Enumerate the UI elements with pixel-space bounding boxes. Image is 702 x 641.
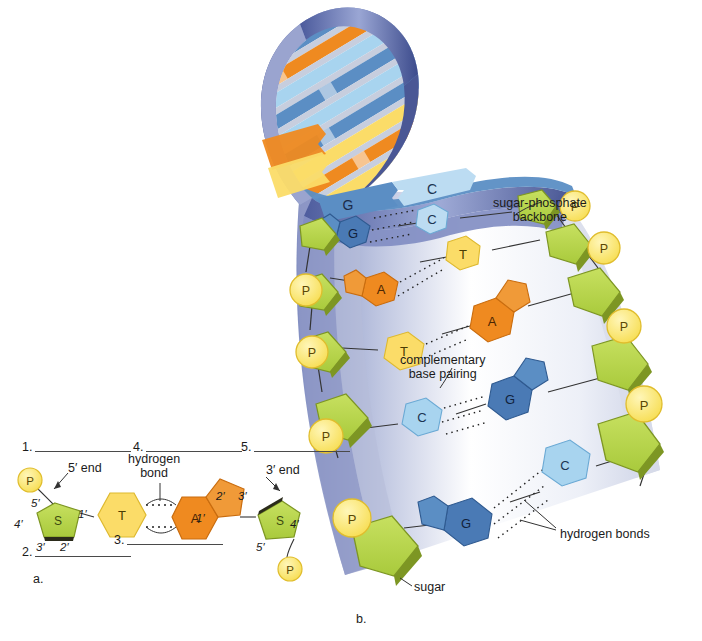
carbon-1-prime-left: 1′	[78, 508, 87, 520]
label-sugar: sugar	[414, 580, 445, 594]
carbon-3-prime-right: 3′	[238, 490, 247, 502]
phosphate-label-left-a: P	[26, 475, 34, 487]
blank-4[interactable]: 4.	[133, 440, 242, 454]
base-label-g1: G	[348, 226, 358, 241]
phosphate-right-4: P	[626, 386, 662, 422]
phosphate-label: P	[308, 346, 316, 360]
blank-1[interactable]: 1.	[22, 440, 131, 454]
phosphate-label-right-a: P	[286, 564, 294, 576]
base-label-g4: G	[505, 392, 515, 407]
phosphate-label: P	[620, 320, 628, 334]
ribbon-base-c: C	[427, 181, 437, 197]
blank-2[interactable]: 2.	[22, 545, 131, 559]
blank-3-rule[interactable]	[127, 544, 223, 545]
phosphate-right-3: P	[607, 309, 641, 343]
phosphate-left-2: P	[296, 336, 328, 368]
hydrogen-line-1: hydrogen	[128, 452, 180, 466]
label-complementary-base-pairing: complementary base pairing	[400, 353, 485, 382]
blank-5-number: 5.	[241, 440, 251, 454]
blank-1-rule[interactable]	[35, 451, 131, 452]
blank-5[interactable]: 5.	[241, 440, 350, 454]
label-5-prime-end: 5′ end	[68, 461, 102, 475]
blank-1-number: 1.	[22, 440, 32, 454]
figure-page: G C	[0, 0, 702, 641]
label-3-prime-end: 3′ end	[266, 463, 300, 477]
carbon-5-prime-right: 5′	[256, 541, 265, 553]
blank-5-rule[interactable]	[254, 451, 350, 452]
blank-3[interactable]: 3.	[114, 533, 223, 547]
complementary-line-1: complementary	[400, 353, 485, 367]
base-label-g5: G	[461, 516, 471, 531]
carbon-1-prime-right: 1′	[196, 512, 205, 524]
blank-3-number: 3.	[114, 533, 124, 547]
blank-4-rule[interactable]	[146, 451, 242, 452]
sugar-label-left-a: S	[54, 514, 62, 528]
blank-2-number: 2.	[22, 545, 32, 559]
base-label-t-a: T	[118, 508, 126, 523]
phosphate-label: P	[348, 512, 357, 527]
base-label-a3: A	[488, 314, 497, 329]
base-label-c5: C	[560, 458, 569, 473]
carbon-2-prime-right: 2′	[216, 490, 225, 502]
hydrogen-line-2: bond	[140, 466, 168, 480]
base-label-a2: A	[377, 282, 386, 297]
sugar-label-right-a: S	[276, 514, 284, 528]
phosphate-left-1: P	[290, 274, 322, 306]
phosphate-right-2: P	[588, 232, 620, 264]
label-hydrogen-bonds: hydrogen bonds	[560, 527, 650, 541]
base-label-c1: C	[427, 212, 436, 227]
label-sugar-phosphate-backbone: sugar-phosphate backbone	[493, 196, 587, 225]
carbon-5-prime-left: 5′	[31, 497, 40, 509]
panel-letter-b: b.	[356, 612, 366, 626]
backbone-line-2: backbone	[513, 210, 567, 224]
nucleotide-right: A S P	[172, 479, 302, 581]
phosphate-label: P	[600, 242, 608, 256]
carbon-4-prime-right: 4′	[290, 518, 299, 530]
backbone-line-1: sugar-phosphate	[493, 196, 587, 210]
blank-4-number: 4.	[133, 440, 143, 454]
ribbon-base-g: G	[343, 197, 354, 213]
phosphate-label: P	[302, 284, 310, 298]
phosphate-left-4: P	[333, 499, 371, 537]
hydrogen-bonds-a	[146, 483, 176, 533]
carbon-4-prime-left: 4′	[14, 518, 23, 530]
base-label-t2: T	[459, 247, 467, 262]
base-label-c4: C	[417, 410, 426, 425]
phosphate-label: P	[640, 398, 649, 413]
label-hydrogen-bond: hydrogen bond	[128, 452, 180, 481]
blank-2-rule[interactable]	[35, 556, 131, 557]
complementary-line-2: base pairing	[409, 367, 477, 381]
panel-letter-a: a.	[33, 572, 43, 586]
